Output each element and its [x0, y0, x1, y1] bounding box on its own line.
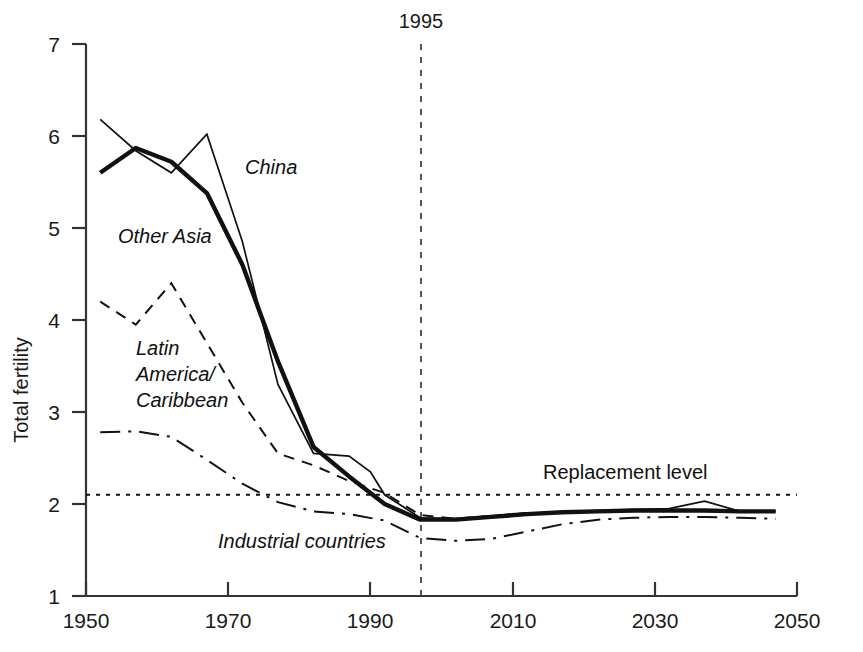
y-axis-title: Total fertility — [10, 337, 32, 443]
x-tick-label-1950: 1950 — [63, 609, 110, 632]
y-tick-label-4: 4 — [48, 309, 60, 332]
fertility-chart: 7 6 5 4 3 2 1 1950 1970 1990 2010 2030 2… — [0, 0, 863, 652]
y-tick-label-1: 1 — [48, 585, 60, 608]
x-tick-label-1990: 1990 — [347, 609, 394, 632]
y-tick-label-2: 2 — [48, 493, 60, 516]
annotation-label-replacement-level: Replacement level — [543, 461, 708, 483]
x-tick-label-1970: 1970 — [205, 609, 252, 632]
chart-canvas: 7 6 5 4 3 2 1 1950 1970 1990 2010 2030 2… — [0, 0, 863, 652]
x-tick-label-2030: 2030 — [632, 609, 679, 632]
y-tick-label-7: 7 — [48, 33, 60, 56]
series-label-latin-america-caribbean: Latin America/ Caribbean — [135, 337, 228, 411]
x-tick-marks — [86, 582, 797, 596]
y-tick-label-5: 5 — [48, 217, 60, 240]
series-label-industrial-countries: Industrial countries — [218, 530, 386, 552]
series-label-other-asia: Other Asia — [118, 225, 212, 247]
year-marker-label: 1995 — [399, 10, 444, 32]
y-tick-marks — [72, 44, 86, 596]
series-line-industrial-countries — [100, 431, 775, 540]
series-line-china — [100, 119, 775, 518]
series-label-china: China — [245, 156, 297, 178]
series-label-latin-line-1: Latin — [136, 337, 179, 359]
y-tick-label-3: 3 — [48, 401, 60, 424]
series-label-latin-line-2: America/ — [135, 363, 217, 385]
x-tick-label-2050: 2050 — [774, 609, 821, 632]
series-label-latin-line-3: Caribbean — [136, 389, 228, 411]
x-tick-label-2010: 2010 — [490, 609, 537, 632]
y-tick-label-6: 6 — [48, 125, 60, 148]
